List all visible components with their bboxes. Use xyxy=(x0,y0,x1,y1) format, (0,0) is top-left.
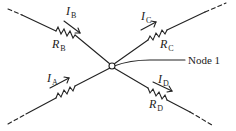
current-label-d: ID xyxy=(158,73,169,88)
node-1-junction-icon xyxy=(109,63,115,69)
resistor-label-d: RD xyxy=(149,98,163,113)
current-arrow-b-icon xyxy=(64,21,80,33)
current-label-a: IA xyxy=(47,72,58,87)
resistor-a-icon xyxy=(56,86,75,98)
node-leader-line xyxy=(114,60,185,66)
resistor-label-b: RB xyxy=(52,38,66,53)
current-label-c: IC xyxy=(141,10,151,25)
node-1-label: Node 1 xyxy=(188,55,220,66)
current-label-b: IB xyxy=(66,5,76,20)
resistor-label-c: RC xyxy=(160,38,174,53)
circuit-diagram: IB RB IC RC IA ID RD Node 1 xyxy=(0,0,236,131)
branch-a xyxy=(8,68,110,124)
